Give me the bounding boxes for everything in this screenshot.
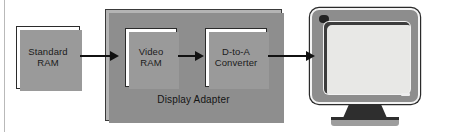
block-standard-ram-label: Standard RAM xyxy=(28,47,67,68)
arrow-standard-ram-to-video-ram-icon xyxy=(80,51,120,62)
block-d-to-a-converter: D-to-A Converter xyxy=(205,28,267,87)
page-margin-rule xyxy=(4,0,5,132)
arrow-head xyxy=(195,51,204,61)
block-video-ram: Video RAM xyxy=(125,28,177,87)
arrow-shaft xyxy=(178,55,196,57)
monitor-indicator-icon xyxy=(401,93,410,96)
arrow-d-to-a-converter-to-monitor-icon xyxy=(268,51,316,62)
arrow-shaft xyxy=(80,55,111,57)
monitor-stand-base xyxy=(331,117,399,126)
arrow-video-ram-to-d-to-a-converter-icon xyxy=(178,51,205,62)
block-standard-ram: Standard RAM xyxy=(16,26,80,89)
block-d-to-a-converter-label: D-to-A Converter xyxy=(215,47,258,68)
arrow-head xyxy=(110,51,119,61)
display-adapter-label: Display Adapter xyxy=(105,94,282,105)
arrow-head xyxy=(306,51,315,61)
crt-monitor-icon xyxy=(310,8,426,124)
monitor-bezel xyxy=(310,8,420,104)
monitor-stand-neck xyxy=(343,104,387,118)
block-video-ram-label: Video RAM xyxy=(139,47,164,68)
monitor-screen xyxy=(324,22,410,94)
arrow-shaft xyxy=(268,55,307,57)
display-adapter-diagram: Display Adapter Standard RAM Video RAM D… xyxy=(0,0,450,132)
